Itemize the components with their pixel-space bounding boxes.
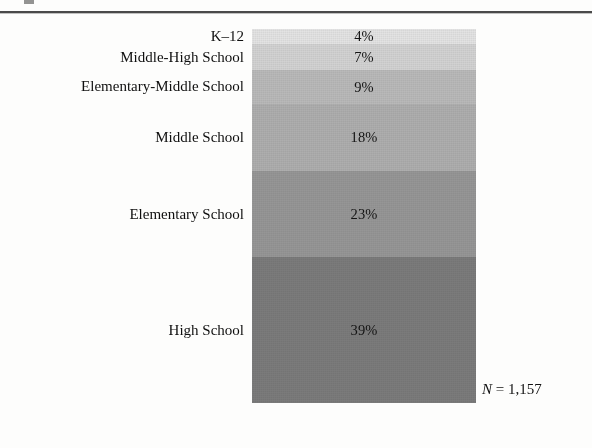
bar-segment-value-high-school: 39% (351, 323, 378, 338)
sample-size-equals: = (492, 381, 508, 397)
bar-segment-k-12: 4% (252, 29, 476, 44)
sample-size-note: N = 1,157 (482, 381, 542, 398)
bar-segment-high-school: 39% (252, 257, 476, 403)
category-label-elementary-middle-school: Elementary-Middle School (14, 79, 252, 94)
bar-segment-middle-school: 18% (252, 104, 476, 171)
category-label-layer: K–12 Middle-High School Elementary-Middl… (0, 29, 252, 403)
bar-segment-value-elementary-school: 23% (351, 207, 378, 222)
bar-segment-value-elementary-middle-school: 9% (354, 80, 374, 95)
bar-segment-middle-high-school: 7% (252, 44, 476, 70)
bar-segment-value-middle-high-school: 7% (354, 50, 374, 65)
category-label-middle-high-school: Middle-High School (14, 50, 252, 65)
bar-column: 4% 7% 9% 18% 23% 39% (252, 29, 476, 403)
bar-segment-elementary-middle-school: 9% (252, 70, 476, 104)
stacked-bar-chart: K–12 Middle-High School Elementary-Middl… (0, 0, 592, 448)
bar-segment-elementary-school: 23% (252, 171, 476, 257)
category-label-elementary-school: Elementary School (14, 207, 252, 222)
sample-size-symbol: N (482, 381, 492, 397)
category-label-k-12: K–12 (14, 29, 252, 44)
category-label-high-school: High School (14, 323, 252, 338)
category-label-middle-school: Middle School (14, 130, 252, 145)
bar-segment-value-middle-school: 18% (351, 130, 378, 145)
sample-size-value: 1,157 (508, 381, 542, 397)
bar-segment-value-k-12: 4% (354, 29, 374, 44)
figure-page: K–12 Middle-High School Elementary-Middl… (0, 0, 592, 448)
